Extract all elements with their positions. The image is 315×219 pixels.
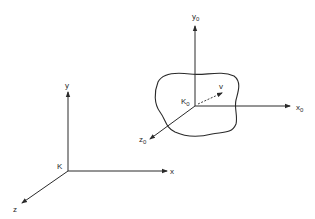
k-origin-label: K (57, 162, 63, 171)
k0-x-label: x0 (296, 103, 304, 113)
frame-k: K y x z (13, 81, 174, 214)
k0-y-label: y0 (192, 12, 200, 22)
k0-z-label: z0 (139, 135, 147, 145)
k0-origin-label: K0 (181, 97, 190, 107)
body-outline (155, 73, 239, 136)
diagram-canvas: K y x z K0 y0 x0 z0 v (0, 0, 315, 219)
frame-k0: K0 y0 x0 z0 v (139, 12, 304, 145)
k-x-label: x (170, 167, 174, 176)
k-y-label: y (65, 81, 69, 90)
k-z-axis (22, 171, 68, 203)
coordinate-frames-diagram: K y x z K0 y0 x0 z0 v (0, 0, 315, 219)
velocity-arrow (198, 93, 222, 104)
velocity-label: v (219, 82, 223, 91)
k-z-label: z (13, 205, 17, 214)
k0-z-axis (150, 106, 195, 139)
